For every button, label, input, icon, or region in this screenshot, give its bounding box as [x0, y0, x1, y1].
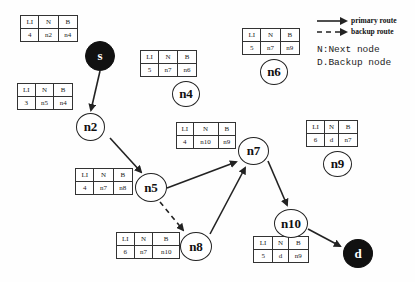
- header-b: B: [339, 121, 358, 134]
- cell-li: 4: [177, 136, 194, 149]
- table-n7: LINB 4n10n9: [176, 122, 236, 149]
- header-li: LI: [117, 233, 135, 246]
- cell-n: d: [324, 134, 338, 147]
- header-n: N: [193, 123, 218, 136]
- header-li: LI: [18, 84, 36, 97]
- header-n: N: [159, 51, 178, 64]
- edge-s-n2: [91, 71, 100, 110]
- cell-b: n9: [218, 136, 235, 149]
- table-n6: LINB 5n7n9: [242, 28, 300, 55]
- header-n: N: [39, 16, 58, 29]
- header-li: LI: [21, 16, 39, 29]
- header-b: B: [113, 169, 132, 182]
- node-s: s: [85, 41, 115, 71]
- node-n6: n6: [260, 59, 288, 85]
- header-n: N: [35, 84, 54, 97]
- table-n8: LINB 6n7n10: [116, 232, 180, 259]
- cell-li: 4: [21, 29, 39, 42]
- cell-li: 5: [141, 64, 159, 77]
- header-li: LI: [141, 51, 159, 64]
- header-b: B: [280, 29, 299, 42]
- header-b: B: [178, 51, 197, 64]
- edge-n2-n5: [110, 138, 141, 172]
- node-n8: n8: [180, 232, 212, 261]
- cell-n: d: [273, 250, 288, 263]
- cell-li: 5: [254, 250, 273, 263]
- table-n4: LINB 5n7n6: [140, 50, 197, 77]
- cell-n: n7: [159, 64, 178, 77]
- header-n: N: [273, 237, 288, 250]
- cell-li: 6: [307, 134, 325, 147]
- cell-n: n10: [193, 136, 218, 149]
- header-b: B: [54, 84, 73, 97]
- header-li: LI: [76, 169, 94, 182]
- header-li: LI: [243, 29, 261, 42]
- legend-primary-label: primary route: [351, 16, 396, 25]
- cell-li: 5: [243, 42, 261, 55]
- cell-n: n7: [261, 42, 280, 55]
- header-n: N: [261, 29, 280, 42]
- cell-b: n7: [339, 134, 358, 147]
- routing-diagram: LINB 4n2n4 LINB 3n5n4 LINB 5n7n6 LINB 5n…: [0, 0, 415, 282]
- cell-b: n4: [58, 29, 77, 42]
- legend-backup-node: D.Backup node: [317, 57, 391, 68]
- node-n10: n10: [274, 209, 308, 238]
- node-n7: n7: [238, 137, 269, 165]
- cell-b: n6: [178, 64, 197, 77]
- cell-li: 3: [18, 97, 36, 110]
- cell-b: n8: [113, 182, 132, 195]
- edge-n8-n7: [210, 168, 245, 234]
- legend-backup-label: backup route: [351, 27, 394, 36]
- cell-n: n5: [35, 97, 54, 110]
- cell-n: n7: [134, 246, 153, 259]
- node-n2: n2: [76, 113, 105, 141]
- header-li: LI: [177, 123, 194, 136]
- edge-n5-n7: [167, 162, 236, 188]
- edge-n5-n8-backup: [160, 202, 183, 230]
- node-n9: n9: [323, 151, 352, 177]
- node-d: d: [343, 239, 373, 268]
- cell-b: n9: [288, 250, 308, 263]
- cell-n: n7: [94, 182, 113, 195]
- header-b: B: [153, 233, 180, 246]
- cell-b: n9: [280, 42, 299, 55]
- header-n: N: [324, 121, 338, 134]
- edge-n10-d: [308, 229, 340, 246]
- header-n: N: [134, 233, 153, 246]
- header-li: LI: [254, 237, 273, 250]
- node-n5: n5: [135, 173, 167, 202]
- node-n4: n4: [172, 81, 200, 107]
- legend-next-node: N:Next node: [317, 44, 380, 55]
- table-s: LINB 4n2n4: [20, 15, 78, 42]
- cell-n: n2: [39, 29, 58, 42]
- cell-li: 6: [117, 246, 135, 259]
- header-li: LI: [307, 121, 325, 134]
- cell-b: n10: [153, 246, 180, 259]
- table-n9: LINB 6dn7: [306, 120, 358, 147]
- table-n5: LINB 4n7n8: [75, 168, 133, 195]
- table-n10: LINB 5dn9: [253, 236, 309, 263]
- header-b: B: [218, 123, 235, 136]
- header-b: B: [58, 16, 77, 29]
- table-n2: LINB 3n5n4: [17, 83, 73, 110]
- cell-b: n4: [54, 97, 73, 110]
- header-n: N: [94, 169, 113, 182]
- edge-n7-n10: [268, 161, 287, 205]
- header-b: B: [288, 237, 308, 250]
- cell-li: 4: [76, 182, 94, 195]
